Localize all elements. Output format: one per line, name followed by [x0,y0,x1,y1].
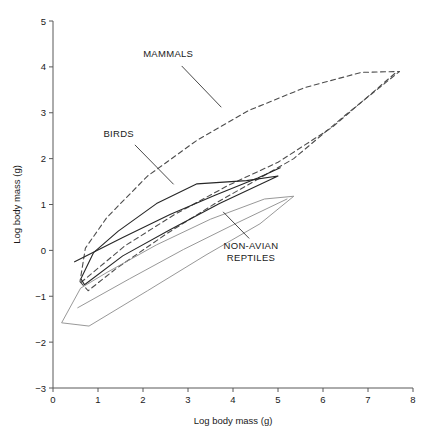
annotation-label-birds: BIRDS [103,128,134,139]
x-tick-label: 0 [50,394,55,405]
body-mass-scaling-chart: −3−2−1012345 012345678 MAMMALSBIRDSNON-A… [0,0,434,435]
chart-background [0,0,434,435]
y-tick-label: −1 [35,291,46,302]
x-tick-label: 2 [140,394,145,405]
y-tick-label: 4 [41,61,46,72]
y-tick-label: 3 [41,107,46,118]
y-axis-title: Log body mass (g) [11,165,22,244]
x-tick-label: 4 [230,394,235,405]
x-tick-label: 1 [95,394,100,405]
annotation-label-non-avian: NON-AVIAN [224,240,279,251]
x-axis-title: Log body mass (g) [194,415,273,426]
x-tick-label: 7 [365,394,370,405]
annotation-label-mammals: MAMMALS [143,48,193,59]
y-tick-label: 2 [41,153,46,164]
annotation-label-line2: REPTILES [227,252,275,263]
x-tick-label: 6 [320,394,325,405]
x-tick-label: 5 [275,394,280,405]
y-tick-label: 1 [41,199,46,210]
chart-container: −3−2−1012345 012345678 MAMMALSBIRDSNON-A… [0,0,434,435]
y-tick-label: 0 [41,245,46,256]
y-tick-label: 5 [41,16,46,27]
y-tick-label: −2 [35,337,46,348]
y-tick-label: −3 [35,383,46,394]
x-tick-label: 8 [410,394,415,405]
x-tick-label: 3 [185,394,190,405]
